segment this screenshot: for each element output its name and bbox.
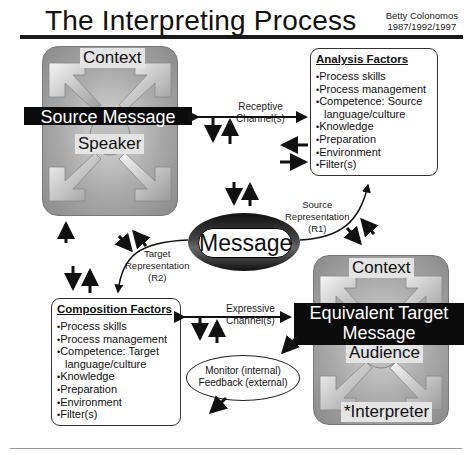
message-node: Message xyxy=(188,213,300,271)
expressive-channel-label: Expressive Channel(s) xyxy=(226,303,275,327)
list-item: Process skills xyxy=(57,321,180,334)
source-context-box: Context Speaker xyxy=(42,46,178,216)
header-rule xyxy=(20,35,463,39)
list-item: Preparation xyxy=(57,384,180,397)
interpreter-label: *Interpreter xyxy=(341,402,432,422)
list-item: Preparation xyxy=(316,134,437,147)
list-item: Filter(s) xyxy=(57,409,180,422)
analysis-factors-list: Process skills Process management Compet… xyxy=(316,71,437,172)
list-item: Competence: Target xyxy=(57,346,180,359)
composition-factors-list: Process skills Process management Compet… xyxy=(57,321,180,422)
audience-label: Audience xyxy=(346,343,423,363)
list-item: Competence: Source xyxy=(316,96,437,109)
message-label: Message xyxy=(198,228,292,258)
equivalent-target-message-bar: Equivalent Target Message xyxy=(294,303,464,345)
author-name: Betty Colonomos xyxy=(386,10,458,21)
list-item: Process skills xyxy=(316,71,437,84)
speaker-label: Speaker xyxy=(75,134,144,154)
composition-factors-box: Composition Factors Process skills Proce… xyxy=(51,298,181,426)
analysis-factors-heading: Analysis Factors xyxy=(316,53,437,65)
page-title: The Interpreting Process xyxy=(45,5,356,37)
author-credit: Betty Colonomos 1987/1992/1997 xyxy=(386,10,458,32)
source-representation-label: Source Representation (R1) xyxy=(285,199,349,235)
source-context-label: Context xyxy=(80,48,145,68)
monitor-feedback-node: Monitor (internal) Feedback (external) xyxy=(186,355,300,401)
receptive-channel-label: Receptive Channel(s) xyxy=(236,101,285,125)
analysis-factors-box: Analysis Factors Process skills Process … xyxy=(310,48,438,176)
author-years: 1987/1992/1997 xyxy=(386,21,458,32)
source-message-bar: Source Message xyxy=(24,107,192,125)
list-item: Filter(s) xyxy=(316,159,437,172)
composition-factors-heading: Composition Factors xyxy=(57,303,180,315)
target-representation-label: Target Representation (R2) xyxy=(125,248,189,284)
target-context-label: Context xyxy=(349,258,414,278)
footer-rule xyxy=(10,448,462,449)
context-arrows-icon xyxy=(43,47,177,215)
